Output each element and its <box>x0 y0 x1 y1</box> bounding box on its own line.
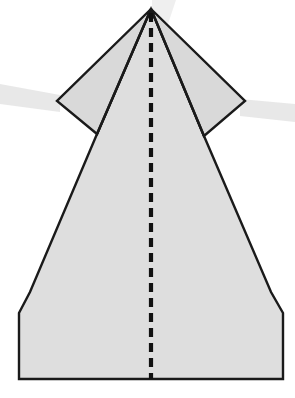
fold-diagram-svg <box>0 0 295 398</box>
fold-diagram-canvas <box>0 0 295 398</box>
scan-band-right <box>240 99 295 122</box>
scan-band-left <box>0 84 60 112</box>
